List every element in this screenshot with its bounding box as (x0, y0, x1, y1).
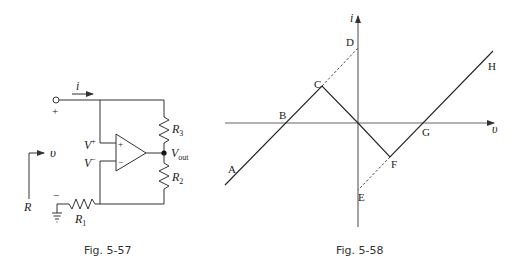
ground-icon (52, 213, 62, 222)
point-b-label: B (279, 109, 286, 121)
v-minus-wire (100, 161, 116, 204)
point-g-label: G (422, 126, 430, 138)
r3-label: R3 (171, 122, 183, 138)
fig-5-58-caption: Fig. 5-58 (336, 244, 384, 257)
figure-canvas: + i R3 + − Vout R2 V+ V− R1 − (0, 0, 518, 267)
point-a-label: A (228, 163, 236, 175)
top-wire (59, 100, 164, 114)
opamp-minus-label: − (118, 157, 123, 167)
plus-terminal-label: + (52, 105, 58, 117)
current-label: i (76, 79, 79, 93)
point-e-label: E (358, 191, 365, 203)
v-plus-wire (100, 100, 116, 143)
circuit-diagram: + i R3 + − Vout R2 V+ V− R1 − (23, 79, 189, 228)
iv-characteristic-graph: υ i A B C D E F G H (225, 11, 498, 227)
i-axis-label: i (350, 11, 353, 25)
point-c-label: C (314, 78, 321, 90)
minus-terminal-label: − (53, 189, 59, 201)
f-to-e-dashed-line (358, 157, 390, 190)
r1-label: R1 (74, 212, 86, 228)
resistor-r1-icon (57, 199, 100, 213)
point-f-label: F (391, 158, 397, 170)
r-to-v-arrow-icon (29, 153, 44, 199)
point-d-label: D (346, 36, 354, 48)
opamp-plus-label: + (118, 139, 123, 149)
input-terminal (53, 97, 59, 103)
fig-5-57-caption: Fig. 5-57 (84, 244, 132, 257)
resistor-r3-icon (159, 114, 169, 153)
v-axis-label: υ (492, 122, 498, 136)
v-arrow-label: υ (50, 145, 56, 160)
point-h-label: H (488, 60, 496, 72)
vout-label: Vout (171, 146, 189, 162)
r2-label: R2 (171, 170, 183, 186)
r-label: R (23, 200, 32, 214)
c-to-d-dashed-line (322, 48, 358, 86)
characteristic-curve (225, 51, 493, 185)
v-plus-label: V+ (84, 137, 96, 152)
v-minus-label: V− (84, 155, 96, 170)
